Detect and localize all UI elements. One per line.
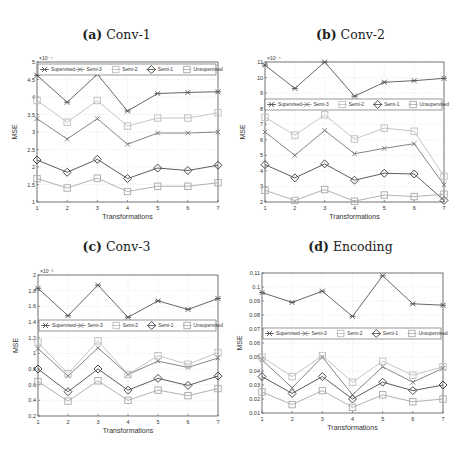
x-tick-label: 4	[126, 419, 129, 425]
panel-title: (d) Encoding	[234, 239, 467, 254]
legend-label: Unsupervised	[420, 102, 450, 107]
legend-label: Supervised	[52, 323, 76, 328]
panel-title: (b) Conv-2	[234, 27, 467, 42]
x-tick-label: 4	[351, 416, 354, 422]
y-tick-label: 8	[260, 106, 263, 112]
x-tick-label: 1	[260, 416, 263, 422]
x-tick-label: 3	[321, 416, 324, 422]
y-tick-label: 0.04	[249, 368, 260, 374]
legend-item: Semi-1	[372, 330, 399, 338]
y-tick-label: 7	[260, 121, 263, 127]
x-tick-label: 5	[381, 416, 384, 422]
panel-title: (a) Conv-1	[0, 27, 233, 42]
panel-conv-3: (c) Conv-3 0.20.40.60.811.21.41.61.82123…	[0, 225, 233, 450]
panel-label: (a)	[82, 27, 102, 42]
y-tick-label: 1	[33, 350, 36, 356]
x-tick-label: 4	[353, 205, 356, 211]
panel-encoding: (d) Encoding 0.010.020.030.040.050.060.0…	[234, 225, 467, 450]
x-axis-label: Transformations	[102, 213, 153, 220]
legend-label: Semi-3	[87, 67, 103, 72]
x-tick-label: 1	[263, 205, 266, 211]
chart-encoding: 0.010.020.030.040.050.060.070.080.090.10…	[234, 225, 467, 450]
y-tick-label: 1.6	[28, 303, 36, 309]
x-tick-label: 6	[186, 205, 189, 211]
y-tick-label: 0.08	[249, 312, 260, 318]
y-tick-label: 0.1	[252, 284, 260, 290]
panel-title: (c) Conv-3	[0, 239, 233, 254]
x-tick-label: 6	[186, 419, 189, 425]
x-tick-label: 5	[156, 419, 159, 425]
x-tick-label: 3	[323, 205, 326, 211]
x-tick-label: 4	[126, 205, 129, 211]
y-scale-label: ×10⁻³	[40, 268, 53, 274]
x-tick-label: 2	[66, 205, 69, 211]
x-tick-label: 3	[96, 205, 99, 211]
x-axis-label: Transformations	[329, 213, 380, 220]
y-tick-label: 5	[32, 59, 35, 65]
x-axis-label: Transformations	[103, 427, 154, 434]
x-tick-label: 2	[293, 205, 296, 211]
y-tick-label: 0.02	[249, 396, 260, 402]
x-tick-label: 7	[216, 419, 219, 425]
panel-name: Conv-2	[341, 27, 385, 42]
series-lines	[34, 283, 222, 405]
legend-label: Supervised	[51, 67, 75, 72]
legend-label: Unsupervised	[418, 331, 448, 336]
legend-label: Semi-1	[158, 323, 174, 328]
panel-label: (d)	[308, 239, 329, 254]
legend-label: Semi-3	[87, 323, 103, 328]
y-scale-label: ×10⁻⁴	[39, 55, 53, 61]
legend-item: Semi-1	[147, 66, 174, 74]
x-axis-label: Transformations	[327, 424, 378, 431]
x-tick-label: 6	[413, 205, 416, 211]
x-tick-label: 7	[442, 205, 445, 211]
y-scale-label: ×10⁻⁴	[267, 55, 281, 61]
y-tick-label: 2.5	[27, 147, 35, 153]
legend-label: Semi-1	[383, 331, 399, 336]
x-tick-label: 1	[36, 419, 39, 425]
y-tick-label: 1.8	[28, 288, 36, 294]
legend-label: Semi-1	[384, 102, 400, 107]
panel-conv-1: (a) Conv-1 11.522.533.544.551234567×10⁻⁴…	[0, 0, 233, 225]
series-semi-2	[262, 112, 447, 180]
panel-name: Conv-3	[106, 239, 150, 254]
legend-item: Semi-1	[147, 322, 174, 330]
y-tick-label: 0.06	[249, 340, 260, 346]
legend-label: Unsupervised	[193, 67, 223, 72]
legend-label: Supervised	[278, 102, 302, 107]
y-tick-label: 11	[257, 59, 263, 65]
legend-label: Supervised	[276, 331, 300, 336]
legend-label: Semi-3	[312, 331, 328, 336]
legend: SupervisedSemi-3Semi-2Semi-1Unsupervised	[265, 99, 449, 110]
y-axis-label: MSE	[236, 335, 243, 351]
legend: SupervisedSemi-3Semi-2Semi-1Unsupervised	[263, 328, 448, 339]
legend-label: Semi-2	[347, 331, 363, 336]
x-tick-label: 1	[35, 205, 38, 211]
y-tick-label: 0.01	[249, 410, 260, 416]
x-tick-label: 5	[383, 205, 386, 211]
y-axis-label: MSE	[239, 124, 246, 140]
legend-label: Semi-3	[313, 102, 329, 107]
legend: SupervisedSemi-3Semi-2Semi-1Unsupervised	[38, 64, 223, 75]
y-tick-label: 4	[260, 168, 263, 174]
legend-label: Unsupervised	[194, 323, 224, 328]
x-tick-label: 2	[291, 416, 294, 422]
y-tick-label: 5	[260, 152, 263, 158]
y-tick-label: 0.11	[250, 270, 260, 276]
y-tick-label: 9	[260, 90, 263, 96]
legend-label: Semi-2	[122, 67, 138, 72]
y-tick-label: 10	[257, 75, 263, 81]
x-tick-label: 5	[156, 205, 159, 211]
y-tick-label: 2	[33, 272, 36, 278]
chart-conv-3: 0.20.40.60.811.21.41.61.821234567×10⁻³Tr…	[0, 225, 233, 450]
legend-label: Semi-2	[349, 102, 365, 107]
y-tick-label: 0.03	[249, 382, 260, 388]
legend-label: Semi-1	[158, 67, 174, 72]
panel-name: Encoding	[333, 239, 393, 254]
y-tick-label: 6	[260, 137, 263, 143]
y-tick-label: 3.5	[27, 112, 35, 118]
legend: SupervisedSemi-3Semi-2Semi-1Unsupervised	[39, 320, 223, 331]
x-tick-label: 7	[216, 205, 219, 211]
panel-name: Conv-1	[106, 27, 150, 42]
x-tick-label: 6	[411, 416, 414, 422]
